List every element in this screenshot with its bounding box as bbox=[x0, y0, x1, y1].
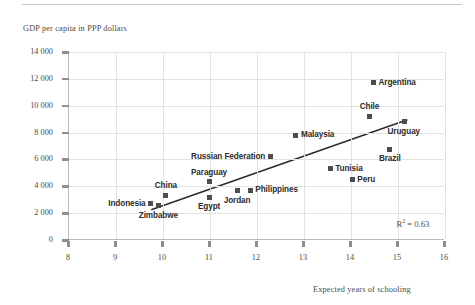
data-point-label: China bbox=[155, 181, 177, 190]
data-point-label: Philippines bbox=[255, 185, 298, 194]
data-point-marker[interactable] bbox=[402, 119, 407, 124]
gridline-vertical bbox=[304, 52, 305, 239]
data-point-marker[interactable] bbox=[163, 193, 168, 198]
x-axis-tick bbox=[161, 241, 164, 247]
data-point-label: Malaysia bbox=[301, 130, 334, 139]
data-point-label: Paraguay bbox=[191, 168, 227, 177]
x-axis-tick bbox=[396, 241, 399, 247]
data-point-label: Chile bbox=[360, 102, 380, 111]
x-axis-tick bbox=[302, 241, 305, 247]
y-axis-tick-label: 4 000 bbox=[13, 181, 53, 190]
x-axis-tick bbox=[443, 241, 446, 247]
gridline-horizontal bbox=[69, 106, 444, 107]
x-axis-tick-label: 8 bbox=[53, 253, 83, 262]
x-axis-tick bbox=[255, 241, 258, 247]
data-point-marker[interactable] bbox=[268, 154, 273, 159]
x-axis-tick-label: 9 bbox=[100, 253, 130, 262]
header-divider bbox=[22, 4, 462, 5]
y-axis-tick-label: 14 000 bbox=[13, 47, 53, 56]
x-axis-tick bbox=[349, 241, 352, 247]
y-axis-tick bbox=[62, 78, 69, 81]
x-axis-tick-label: 11 bbox=[194, 253, 224, 262]
data-point-marker[interactable] bbox=[371, 80, 376, 85]
data-point-marker[interactable] bbox=[235, 188, 240, 193]
gridline-horizontal bbox=[69, 52, 444, 53]
data-point-label: Peru bbox=[357, 175, 375, 184]
y-axis-tick bbox=[62, 212, 69, 215]
gridline-horizontal bbox=[69, 213, 444, 214]
data-point-marker[interactable] bbox=[387, 147, 392, 152]
data-point-label: Russian Federation bbox=[191, 152, 265, 161]
data-point-marker[interactable] bbox=[248, 188, 253, 193]
x-axis-title: Expected years of schooling bbox=[313, 285, 411, 294]
data-point-marker[interactable] bbox=[148, 201, 153, 206]
y-axis-tick bbox=[62, 132, 69, 135]
r-squared-annotation: R2 = 0.63 bbox=[396, 218, 429, 229]
y-axis-tick-label: 6 000 bbox=[13, 154, 53, 163]
gridline-vertical bbox=[351, 52, 352, 239]
x-axis-tick-label: 10 bbox=[147, 253, 177, 262]
y-axis-tick bbox=[62, 51, 69, 54]
x-axis-tick bbox=[114, 241, 117, 247]
gridline-vertical bbox=[116, 52, 117, 239]
data-point-marker[interactable] bbox=[328, 166, 333, 171]
data-point-label: Zimbabwe bbox=[139, 211, 178, 220]
gridline-vertical bbox=[445, 52, 446, 239]
y-axis-tick-label: 2 000 bbox=[13, 208, 53, 217]
data-point-marker[interactable] bbox=[293, 133, 298, 138]
data-point-label: Indonesia bbox=[108, 199, 145, 208]
y-axis-title: GDP per capita in PPP dollars bbox=[23, 24, 127, 33]
y-axis-tick-label: 12 000 bbox=[13, 74, 53, 83]
y-axis-tick-label: 10 000 bbox=[13, 101, 53, 110]
data-point-label: Tunisia bbox=[335, 164, 362, 173]
data-point-label: Jordan bbox=[224, 196, 251, 205]
data-point-marker[interactable] bbox=[350, 177, 355, 182]
data-point-marker[interactable] bbox=[156, 203, 161, 208]
x-axis-tick-label: 16 bbox=[429, 253, 459, 262]
y-axis-tick bbox=[62, 105, 69, 108]
y-axis-tick-label: 8 000 bbox=[13, 128, 53, 137]
data-point-label: Uruguay bbox=[388, 127, 421, 136]
chart-figure: GDP per capita in PPP dollars Expected y… bbox=[0, 0, 475, 305]
data-point-label: Argentina bbox=[379, 78, 416, 87]
x-axis-tick-label: 15 bbox=[382, 253, 412, 262]
x-axis-tick bbox=[67, 241, 70, 247]
y-axis-tick-label: 0 bbox=[13, 235, 53, 244]
r2-value: = 0.63 bbox=[407, 219, 429, 229]
y-axis-tick bbox=[62, 158, 69, 161]
x-axis-tick-label: 14 bbox=[335, 253, 365, 262]
data-point-label: Brazil bbox=[379, 154, 401, 163]
gridline-vertical bbox=[257, 52, 258, 239]
x-axis-tick bbox=[208, 241, 211, 247]
x-axis-tick-label: 13 bbox=[288, 253, 318, 262]
data-point-marker[interactable] bbox=[367, 114, 372, 119]
data-point-label: Egypt bbox=[198, 202, 220, 211]
x-axis-tick-label: 12 bbox=[241, 253, 271, 262]
y-axis-tick bbox=[62, 185, 69, 188]
data-point-marker[interactable] bbox=[207, 179, 212, 184]
data-point-marker[interactable] bbox=[207, 195, 212, 200]
r2-exponent: 2 bbox=[402, 218, 405, 224]
